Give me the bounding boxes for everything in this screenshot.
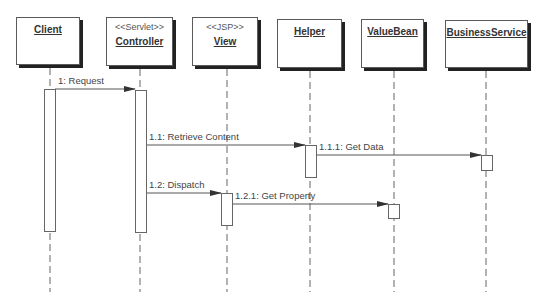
participant-stereotype: <<Servlet>>: [107, 22, 172, 33]
participant-name: Client: [17, 24, 79, 36]
lifelines: [50, 68, 486, 292]
participant-name: BusinessService: [446, 27, 527, 39]
activation-bar-valuebean: [389, 205, 400, 219]
activation-bars: [45, 90, 493, 233]
activation-bar-view: [222, 194, 233, 226]
message-label: 1.2.1: Get Property: [235, 190, 315, 201]
participant-client[interactable]: Client: [16, 17, 80, 65]
message-label: 1.1.1: Get Data: [319, 141, 383, 152]
message-label: 1.2: Dispatch: [149, 179, 204, 190]
message-label: 1.1: Retrieve Content: [149, 131, 239, 142]
message-label: 1: Request: [58, 75, 104, 86]
participant-stereotype: <<JSP>>: [193, 22, 257, 33]
activation-bar-helper: [306, 146, 317, 178]
participant-businessservice[interactable]: BusinessService: [445, 20, 528, 68]
participant-controller[interactable]: <<Servlet>>Controller: [106, 17, 173, 66]
activation-bar-businessservice: [482, 156, 493, 171]
message-arrows: [55, 89, 481, 204]
participant-valuebean[interactable]: ValueBean: [361, 19, 424, 68]
activation-bar-controller: [136, 91, 147, 233]
participant-name: View: [193, 36, 257, 48]
participant-name: ValueBean: [362, 26, 423, 38]
participant-view[interactable]: <<JSP>>View: [192, 17, 258, 66]
participant-helper[interactable]: Helper: [277, 19, 342, 68]
activation-bar-client: [45, 90, 56, 232]
participant-name: Helper: [278, 26, 341, 38]
participant-name: Controller: [107, 36, 172, 48]
